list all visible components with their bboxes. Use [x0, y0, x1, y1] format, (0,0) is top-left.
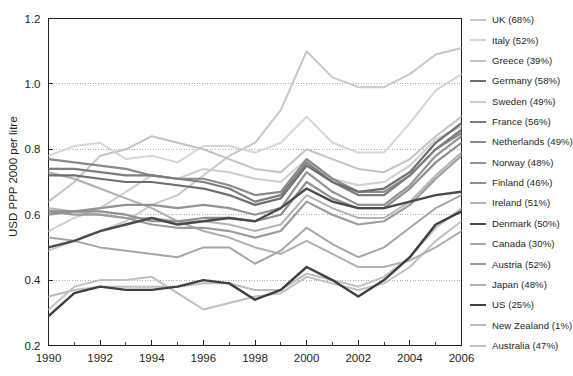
legend-line-swatch-icon: [470, 121, 486, 123]
legend-item[interactable]: Germany (58%): [470, 71, 560, 91]
legend-line-swatch-icon: [470, 162, 486, 164]
legend-item[interactable]: Austria (52%): [470, 254, 551, 274]
legend-line-swatch-icon: [470, 223, 486, 225]
legend-item[interactable]: Italy (52%): [470, 30, 538, 50]
legend-line-swatch-icon: [470, 101, 486, 103]
legend-item-label: France (56%): [492, 117, 551, 127]
legend-item[interactable]: Canada (30%): [470, 234, 554, 254]
legend-line-swatch-icon: [470, 182, 486, 184]
x-axis-tick-label: 1990: [36, 352, 62, 364]
y-axis-title: USD PPP 2000 per litre: [7, 116, 19, 237]
x-axis-tick-label: 1994: [139, 352, 165, 364]
legend-item-label: Italy (52%): [492, 36, 538, 46]
x-axis-tick-label: 2004: [397, 352, 423, 364]
x-axis-tick-label: 1992: [87, 352, 113, 364]
y-axis-tick-label: 1.2: [25, 13, 41, 25]
x-axis-tick-label: 1998: [242, 352, 268, 364]
legend-line-swatch-icon: [470, 19, 486, 21]
legend-item[interactable]: UK (68%): [470, 10, 534, 30]
legend-item-label: Australia (47%): [492, 341, 558, 351]
legend-line-swatch-icon: [470, 80, 486, 82]
legend-item[interactable]: Greece (39%): [470, 51, 552, 71]
legend-item[interactable]: Sweden (49%): [470, 91, 556, 111]
legend-item-label: Denmark (50%): [492, 219, 560, 229]
legend-line-swatch-icon: [470, 324, 486, 326]
legend-line-swatch-icon: [470, 243, 486, 245]
y-axis-tick-label: 0.8: [25, 143, 41, 155]
legend-item-label: UK (68%): [492, 15, 534, 25]
legend-item[interactable]: Netherlands (49%): [470, 132, 573, 152]
legend-item-label: Ireland (51%): [492, 198, 550, 208]
legend-item-label: New Zealand (1%): [492, 321, 572, 331]
legend-line-swatch-icon: [470, 263, 486, 265]
series-line: [49, 117, 462, 202]
legend-line-swatch-icon: [470, 345, 486, 347]
legend-item[interactable]: Finland (46%): [470, 173, 552, 193]
legend-item-label: Canada (30%): [492, 239, 554, 249]
legend-item-label: Greece (39%): [492, 56, 552, 66]
legend-item-label: Netherlands (49%): [492, 137, 573, 147]
legend-item[interactable]: Japan (48%): [470, 275, 547, 295]
y-axis-tick-label: 1.0: [25, 78, 41, 90]
legend-line-swatch-icon: [470, 284, 486, 286]
legend-item-label: Austria (52%): [492, 260, 551, 270]
legend-item-label: Finland (46%): [492, 178, 552, 188]
legend-line-swatch-icon: [470, 141, 486, 143]
x-axis-tick-label: 2000: [294, 352, 320, 364]
legend-item-label: Norway (48%): [492, 158, 553, 168]
legend-item[interactable]: Denmark (50%): [470, 214, 560, 234]
series-line: [49, 172, 462, 267]
y-axis-tick-label: 0.6: [25, 209, 41, 221]
legend-line-swatch-icon: [470, 202, 486, 204]
y-axis-tick-label: 0.2: [25, 340, 41, 352]
x-axis-tick-label: 1996: [191, 352, 217, 364]
legend-line-swatch-icon: [470, 60, 486, 62]
legend-line-swatch-icon: [470, 304, 486, 306]
legend-item[interactable]: Ireland (51%): [470, 193, 550, 213]
legend-item[interactable]: France (56%): [470, 112, 551, 132]
legend-item-label: Japan (48%): [492, 280, 547, 290]
legend-item-label: US (25%): [492, 300, 534, 310]
legend-line-swatch-icon: [470, 39, 486, 41]
y-axis-tick-label: 0.4: [25, 274, 42, 286]
x-axis-tick-label: 2002: [345, 352, 371, 364]
series-line: [49, 136, 462, 214]
legend-item[interactable]: US (25%): [470, 295, 534, 315]
series-group: [49, 48, 462, 316]
legend-item-label: Germany (58%): [492, 76, 560, 86]
legend-item[interactable]: Norway (48%): [470, 152, 553, 172]
series-line: [49, 130, 462, 202]
legend-item[interactable]: New Zealand (1%): [470, 315, 572, 335]
legend-item-label: Sweden (49%): [492, 97, 556, 107]
legend-item[interactable]: Australia (47%): [470, 336, 558, 356]
